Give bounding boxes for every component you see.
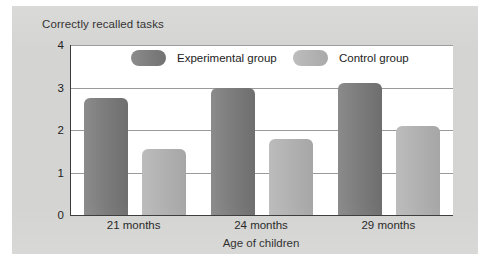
legend-item: Control group <box>293 50 409 66</box>
x-axis-tick-label: 21 months <box>107 219 161 231</box>
x-axis-tick-label: 29 months <box>361 219 415 231</box>
chart-screenshot: Correctly recalled tasks 01234 Experimen… <box>0 0 490 269</box>
x-axis-title: Age of children <box>223 237 300 249</box>
y-axis-tick-label: 4 <box>46 39 64 51</box>
chart-legend: Experimental groupControl group <box>71 45 453 77</box>
y-axis-tick-label: 2 <box>46 124 64 136</box>
y-axis-tick-label: 3 <box>46 82 64 94</box>
bar <box>142 149 186 215</box>
x-axis-tick-label: 24 months <box>234 219 288 231</box>
chart-title: Correctly recalled tasks <box>42 18 164 30</box>
plot-area: Experimental groupControl group <box>70 45 453 216</box>
gridline <box>71 88 453 89</box>
legend-label: Experimental group <box>177 52 277 64</box>
legend-swatch-icon <box>131 50 166 66</box>
legend-label: Control group <box>339 52 409 64</box>
y-axis-tick-label: 1 <box>46 167 64 179</box>
legend-item: Experimental group <box>131 50 277 66</box>
bar <box>396 126 440 215</box>
legend-swatch-icon <box>293 50 328 66</box>
bar <box>269 139 313 216</box>
bar <box>84 98 128 215</box>
y-axis-tick-label: 0 <box>46 209 64 221</box>
bar <box>338 83 382 215</box>
figure-panel: Correctly recalled tasks 01234 Experimen… <box>12 6 478 254</box>
y-axis-tick-labels: 01234 <box>44 45 64 215</box>
bar <box>211 88 255 216</box>
